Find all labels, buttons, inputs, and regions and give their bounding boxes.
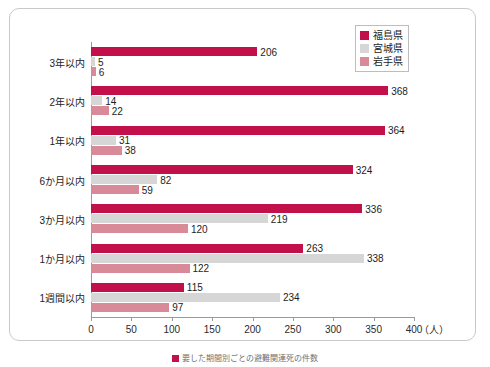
x-axis-tick-label: 100 (163, 324, 180, 335)
bar[interactable] (91, 264, 190, 273)
legend-item-label: 福島県 (373, 30, 403, 41)
bar-value-label: 368 (388, 85, 408, 96)
x-axis-tick-label: 300 (325, 324, 342, 335)
bar-row: 115 (91, 283, 414, 292)
plot-area: 0501001502002503003504003年以内206562年以内368… (91, 42, 414, 317)
bar[interactable] (91, 96, 102, 105)
bar-value-label: 234 (280, 292, 300, 303)
bar-row: 97 (91, 303, 414, 312)
x-axis-tick (374, 317, 375, 321)
bar[interactable] (91, 146, 122, 155)
x-axis-tick (131, 317, 132, 321)
bar-group: 1か月以内263338122 (91, 244, 414, 273)
bar-row: 14 (91, 96, 414, 105)
legend-swatch-icon (360, 31, 369, 40)
x-axis-tick (172, 317, 173, 321)
bar-value-label: 22 (109, 105, 123, 116)
bar-value-label: 97 (169, 302, 183, 313)
x-axis-tick (333, 317, 334, 321)
bar-value-label: 115 (184, 282, 203, 293)
bar-row: 59 (91, 185, 414, 194)
bar-row: 38 (91, 146, 414, 155)
chart-caption: 要した期間別ごとの避難関連死の件数 (0, 352, 490, 367)
chart-page: 福島県宮城県岩手県 0501001502002503003504003年以内20… (0, 0, 490, 367)
bar[interactable] (91, 214, 268, 223)
y-axis-category-label: 2年以内 (49, 93, 85, 108)
x-axis-tick (414, 317, 415, 321)
bar[interactable] (91, 126, 385, 135)
bar[interactable] (91, 86, 388, 95)
bar-row: 263 (91, 244, 414, 253)
x-axis-tick-label: 150 (204, 324, 221, 335)
bar-group: 3年以内20656 (91, 47, 414, 76)
x-axis-tick (253, 317, 254, 321)
bar-row: 22 (91, 106, 414, 115)
bar-row: 336 (91, 204, 414, 213)
bar-row: 338 (91, 254, 414, 263)
y-axis-category-label: 1週間以内 (39, 290, 85, 305)
x-axis-tick-label: 50 (126, 324, 137, 335)
bar-row: 324 (91, 165, 414, 174)
bar-value-label: 219 (268, 213, 288, 224)
bar[interactable] (91, 165, 353, 174)
bar[interactable] (91, 283, 184, 292)
bar[interactable] (91, 303, 169, 312)
bar-value-label: 263 (303, 243, 323, 254)
x-axis-unit-label: （人） (419, 322, 449, 337)
bar-group: 2年以内3681422 (91, 86, 414, 115)
bar-group: 1年以内3643138 (91, 126, 414, 155)
bar-value-label: 338 (364, 253, 384, 264)
y-axis-category-label: 3年以内 (49, 54, 85, 69)
bar-row: 219 (91, 214, 414, 223)
bar-value-label: 324 (353, 164, 373, 175)
bar-value-label: 59 (139, 184, 153, 195)
x-axis-tick (293, 317, 294, 321)
x-axis-tick-label: 250 (285, 324, 302, 335)
x-axis-tick-label: 0 (88, 324, 94, 335)
bar-row: 364 (91, 126, 414, 135)
x-axis-tick (212, 317, 213, 321)
x-axis-tick (91, 317, 92, 321)
bar[interactable] (91, 224, 188, 233)
bar-row: 122 (91, 264, 414, 273)
y-axis-category-label: 3か月以内 (39, 211, 85, 226)
y-axis-category-label: 1か月以内 (39, 251, 85, 266)
y-axis-category-label: 1年以内 (49, 133, 85, 148)
bar-group: 6か月以内3248259 (91, 165, 414, 194)
bar-value-label: 120 (188, 223, 208, 234)
bar-value-label: 38 (122, 145, 136, 156)
bar[interactable] (91, 254, 364, 263)
bar-row: 206 (91, 47, 414, 56)
bar-value-label: 336 (362, 203, 382, 214)
x-axis-tick-label: 200 (244, 324, 261, 335)
bar[interactable] (91, 136, 116, 145)
bar-value-label: 206 (257, 46, 277, 57)
bar[interactable] (91, 175, 157, 184)
y-axis-category-label: 6か月以内 (39, 172, 85, 187)
x-axis-tick-label: 350 (365, 324, 382, 335)
bar-row: 234 (91, 293, 414, 302)
bar-group: 1週間以内11523497 (91, 283, 414, 312)
caption-swatch-icon (172, 355, 179, 362)
caption-text: 要した期間別ごとの避難関連死の件数 (182, 354, 318, 363)
bar-group: 3か月以内336219120 (91, 204, 414, 233)
bar-value-label: 6 (96, 66, 105, 77)
bar[interactable] (91, 47, 257, 56)
bar-row: 5 (91, 57, 414, 66)
bar-value-label: 82 (157, 174, 171, 185)
bar-row: 120 (91, 224, 414, 233)
bar[interactable] (91, 106, 109, 115)
legend-item[interactable]: 福島県 (360, 29, 403, 42)
bar[interactable] (91, 244, 303, 253)
bar-row: 82 (91, 175, 414, 184)
bar-row: 368 (91, 86, 414, 95)
bar-row: 31 (91, 136, 414, 145)
bar-row: 6 (91, 67, 414, 76)
bar[interactable] (91, 204, 362, 213)
bar[interactable] (91, 293, 280, 302)
bar[interactable] (91, 185, 139, 194)
bar-value-label: 364 (385, 125, 405, 136)
bar-value-label: 122 (190, 263, 210, 274)
